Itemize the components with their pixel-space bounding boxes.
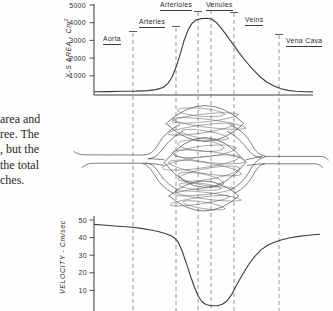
velocity-chart: [90, 216, 321, 311]
divider-cap-mark: [230, 12, 238, 13]
area-tick-label: 1000: [64, 71, 86, 80]
capillary-loop: [168, 157, 243, 179]
vessel-branch: [149, 159, 165, 160]
area-tick-label: 4000: [64, 18, 86, 27]
velocity-tick-label: 50: [65, 216, 87, 225]
caption-line: ches.: [0, 173, 59, 188]
region-label-veins: Veins: [245, 16, 263, 26]
divider-cap-mark: [194, 11, 202, 12]
vessel-branch: [228, 132, 262, 158]
area-tick-label: 5000: [64, 1, 86, 10]
area-tick-label: 2000: [64, 54, 86, 63]
capillary-loop: [179, 182, 222, 192]
velocity-tick-label: 10: [65, 286, 87, 295]
velocity-tick-label: 20: [65, 268, 87, 277]
vessel-branch: [230, 157, 265, 190]
velocity-curve: [94, 224, 320, 305]
area-curve: [94, 18, 313, 92]
area-y-axis-label-text: X-S AREA - Cm: [65, 21, 72, 77]
capillary-loop: [162, 152, 241, 174]
capillary-loop: [172, 115, 247, 132]
caption-line: area and: [0, 112, 59, 127]
velocity-tick-label: 40: [65, 233, 87, 242]
area-y-axis-label: X-S AREA - Cm2: [61, 0, 71, 98]
capillary-loop: [174, 185, 234, 198]
vessel-wall: [82, 163, 146, 167]
caption-line: the total: [0, 158, 59, 173]
capillary-loop: [177, 106, 225, 118]
caption-line: , but the: [0, 142, 59, 157]
vascular-tree-schematic: [74, 106, 329, 212]
capillary-loop: [178, 138, 225, 153]
vessel-branch: [146, 163, 178, 189]
divider-cap-mark: [275, 34, 283, 35]
area-chart: [90, 4, 314, 95]
region-label-venules: Venules: [206, 1, 233, 11]
caption-line: ree. The: [0, 127, 59, 142]
caption-fragment: area andree. The, but thethe totalches.: [0, 112, 59, 188]
area-tick-label: 3000: [64, 36, 86, 45]
region-label-arterioles: Arterioles: [160, 1, 192, 11]
figure-root: X-S AREA - Cm2 VELOCITY - Cm/sec area an…: [0, 0, 333, 311]
vessel-branch: [246, 157, 262, 160]
vessel-branch: [143, 163, 175, 193]
vessel-wall: [74, 152, 144, 156]
vessel-branch: [149, 132, 183, 159]
vessel-wall: [265, 156, 329, 160]
divider-cap-mark: [129, 31, 137, 32]
vessel-branch: [234, 164, 265, 194]
vessel-wall: [263, 164, 323, 168]
region-label-aorta: Aorta: [103, 35, 121, 45]
region-label-arteries: Arteries: [139, 18, 165, 28]
region-label-vena-cava: Vena Cava: [286, 37, 322, 47]
divider-cap-mark: [172, 26, 180, 27]
velocity-tick-label: 30: [65, 251, 87, 260]
